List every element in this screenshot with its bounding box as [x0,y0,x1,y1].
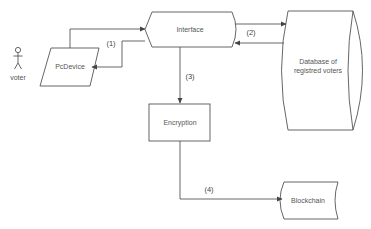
edge-label-2: (2) [246,28,256,37]
edge-label-4: (4) [204,185,214,194]
edge-interface-to-pc: (1) [92,39,145,67]
blockchain-node: Blockchain [280,182,338,219]
interface-label: Interface [176,26,203,33]
database-label-line1: Database of [299,58,337,65]
database-node: Database of registred voters [282,11,363,130]
edge-database-to-interface: (2) [235,28,284,43]
pc-device-node: PcDevice [40,48,99,86]
voter-label: voter [10,74,26,81]
interface-node: Interface [145,12,236,47]
blockchain-label: Blockchain [291,197,325,204]
edge-encryption-to-blockchain: (4) [180,141,282,199]
flowchart-diagram: voter PcDevice Interface Database of reg… [0,0,371,229]
encryption-node: Encryption [149,104,210,141]
stick-figure-icon [14,47,23,69]
edge-interface-to-encryption: (3) [180,47,195,103]
pc-device-label: PcDevice [55,63,85,70]
encryption-label: Encryption [163,119,196,127]
edge-label-3: (3) [185,72,195,81]
database-label-line2: registred voters [294,67,343,75]
edge-label-1: (1) [106,39,116,48]
voter-actor: voter [10,47,26,81]
